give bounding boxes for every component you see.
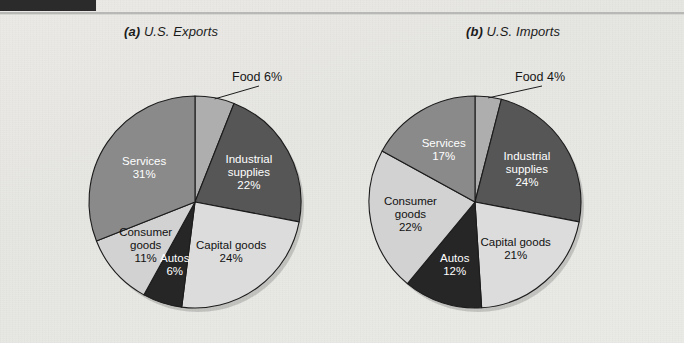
callout-leader-line-food [215,86,259,99]
slice-label-autos: Autos12% [440,252,470,277]
pie-chart-layer: Industrialsupplies22%Capital goods24%Aut… [0,0,684,343]
callout-leader-line-food [488,86,542,98]
